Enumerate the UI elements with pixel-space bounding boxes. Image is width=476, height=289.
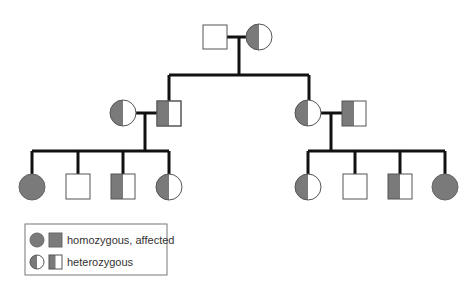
legend-affected-square-icon xyxy=(49,233,62,247)
individual-III-5[interactable] xyxy=(295,174,321,200)
pedigree-diagram: homozygous, affected heterozygous xyxy=(0,0,476,289)
individual-II-2[interactable] xyxy=(157,101,181,126)
male-unaffected-symbol xyxy=(343,174,367,199)
individual-II-1[interactable] xyxy=(110,100,136,126)
male-unaffected-symbol xyxy=(66,174,90,199)
female-affected-symbol xyxy=(432,174,458,200)
individual-III-4[interactable] xyxy=(156,174,182,200)
half-fill xyxy=(157,101,169,126)
individual-I-1[interactable] xyxy=(203,25,227,49)
female-affected-symbol xyxy=(19,174,45,200)
legend-heterozygous-circle-icon xyxy=(30,255,44,269)
individual-II-3[interactable] xyxy=(295,100,321,126)
half-fill xyxy=(388,174,400,199)
individual-III-8[interactable] xyxy=(432,174,458,200)
individual-II-4[interactable] xyxy=(342,101,366,126)
individual-I-2[interactable] xyxy=(246,24,272,50)
legend-label-heterozygous: heterozygous xyxy=(67,256,134,268)
individual-III-6[interactable] xyxy=(343,174,367,199)
individual-III-3[interactable] xyxy=(111,174,135,199)
male-unaffected-symbol xyxy=(203,25,227,49)
individual-III-7[interactable] xyxy=(388,174,412,199)
individual-III-2[interactable] xyxy=(66,174,90,199)
legend-heterozygous-square-icon xyxy=(49,255,62,269)
half-fill xyxy=(111,174,123,199)
legend-affected-circle-icon xyxy=(30,233,44,247)
legend-label-homozygous: homozygous, affected xyxy=(67,234,174,246)
pedigree-lines xyxy=(32,37,445,174)
individual-III-1[interactable] xyxy=(19,174,45,200)
legend: homozygous, affected heterozygous xyxy=(25,224,174,275)
half-fill xyxy=(342,101,354,126)
